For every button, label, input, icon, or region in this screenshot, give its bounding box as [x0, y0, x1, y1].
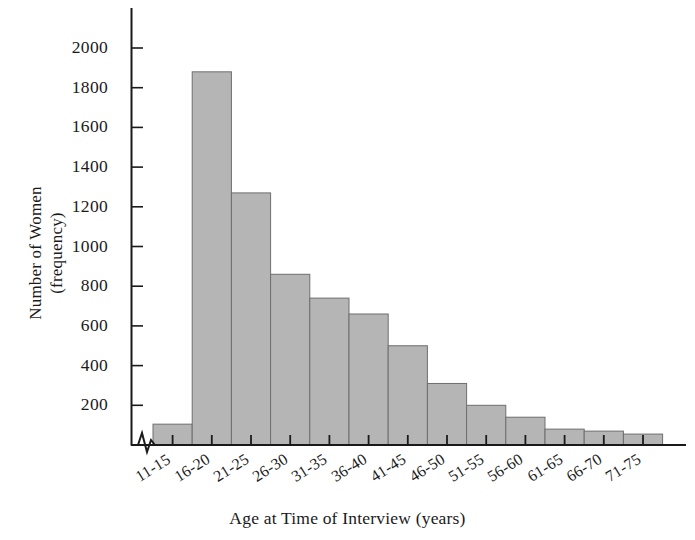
x-axis-tick-labels: 11-1516-2021-2526-3031-3536-4041-4546-50…	[0, 0, 695, 540]
x-tick-label: 31-35	[289, 451, 330, 485]
x-tick-label: 11-15	[132, 451, 172, 485]
x-tick-label: 51-55	[446, 451, 487, 485]
x-tick-label: 21-25	[211, 451, 252, 485]
x-tick-label: 66-70	[564, 451, 605, 485]
x-tick-label: 26-30	[250, 451, 291, 485]
x-tick-label: 71-75	[603, 451, 644, 485]
x-tick-label: 41-45	[368, 451, 409, 485]
x-tick-label: 46-50	[407, 451, 448, 485]
x-tick-label: 16-20	[172, 451, 213, 485]
histogram-chart: Number of Women (frequency) 200400600800…	[0, 0, 695, 540]
x-tick-label: 56-60	[485, 451, 526, 485]
x-axis-title: Age at Time of Interview (years)	[0, 508, 695, 529]
x-tick-label: 61-65	[524, 451, 565, 485]
x-tick-label: 36-40	[328, 451, 369, 485]
